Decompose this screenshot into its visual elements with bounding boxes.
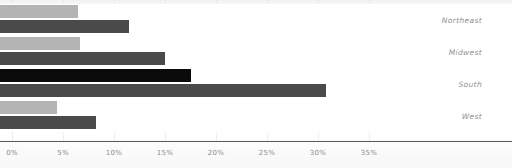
bar[interactable] <box>0 116 96 129</box>
x-axis: 0%5%10%15%20%25%30%35% <box>0 141 512 168</box>
x-axis-tick-label: 5% <box>57 149 69 157</box>
x-axis-tick-label: 10% <box>106 149 122 157</box>
bar[interactable] <box>0 101 57 114</box>
x-axis-line <box>0 141 512 142</box>
bar[interactable] <box>0 37 80 50</box>
plot-area: NortheastMidwestSouthWest <box>0 0 512 141</box>
group-label: West <box>462 111 482 120</box>
group-label: South <box>458 79 482 88</box>
bar-chart: NortheastMidwestSouthWest 0%5%10%15%20%2… <box>0 0 512 168</box>
group-label: Midwest <box>449 47 482 56</box>
bar[interactable] <box>0 52 165 65</box>
bar[interactable] <box>0 69 191 82</box>
bar-group: West <box>0 100 512 131</box>
x-axis-tick-label: 0% <box>6 149 18 157</box>
x-axis-tick-label: 30% <box>310 149 326 157</box>
x-axis-tick-label: 35% <box>361 149 377 157</box>
bar[interactable] <box>0 20 129 33</box>
bar[interactable] <box>0 84 326 97</box>
x-axis-tick-label: 25% <box>259 149 275 157</box>
x-axis-tick-label: 15% <box>157 149 173 157</box>
bar-group: Northeast <box>0 4 512 35</box>
bar[interactable] <box>0 5 78 18</box>
group-label: Northeast <box>442 15 482 24</box>
x-axis-tick-label: 20% <box>208 149 224 157</box>
bar-group: South <box>0 68 512 99</box>
bar-group: Midwest <box>0 36 512 67</box>
